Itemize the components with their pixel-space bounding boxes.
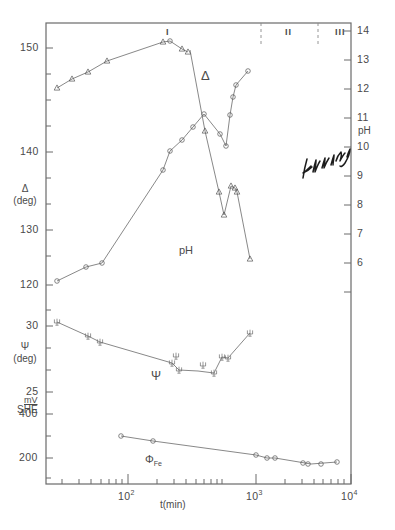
handwritten-annotation [303,149,350,178]
plot-svg [0,0,395,530]
y-ph-tick-10: 10 [357,141,369,152]
y-phi-tick-400: 400 [19,408,38,419]
y-axis-psi-unit: (deg) [6,354,44,365]
region-label-2: II [285,28,292,37]
y-psi-tick-30: 30 [26,320,38,331]
series-label-delta: Δ [201,69,210,83]
y-ph-tick-6: 6 [357,257,363,268]
left-axis-ticks [46,48,53,478]
x-tick-1000: 103 [246,489,263,502]
x-axis-ticks [62,474,351,484]
y-ph-tick-14: 14 [357,25,369,36]
y-axis-psi-symbol: Ψ [8,342,42,353]
y-ph-tick-12: 12 [357,83,369,94]
x-tick-10000: 104 [341,489,358,502]
series-delta [54,39,191,90]
y-ph-tick-11: 11 [357,112,369,123]
series-label-phi-fe: ΦFe [145,454,162,468]
region-label-1: I [166,28,170,37]
y-phi-tick-200: 200 [19,452,38,463]
series-label-ph: pH [179,245,193,257]
series-label-psi: Ψ [151,370,161,383]
series-ph-triangles [190,50,253,261]
y-ph-tick-9: 9 [357,170,363,181]
y-ph-tick-7: 7 [357,228,363,239]
region-label-3: III [335,28,346,37]
series-ph-circles [55,69,251,284]
y-axis-ph-label: pH [358,126,371,137]
y-ph-tick-8: 8 [357,199,363,210]
x-axis-label: t(min) [160,500,186,511]
y-delta-tick-120: 120 [20,279,39,290]
y-axis-delta-unit: (deg) [6,196,44,207]
series-psi [54,319,252,377]
y-delta-tick-140: 140 [20,146,39,157]
y-delta-tick-150: 150 [20,42,39,53]
figure-panel: I II III 150 140 130 120 Δ (deg) 30 25 Ψ… [0,0,395,530]
y-axis-delta-symbol: Δ [8,184,42,195]
y-ph-tick-13: 13 [357,54,369,65]
plot-frame [46,23,351,484]
y-delta-tick-130: 130 [20,224,39,235]
x-tick-100: 102 [118,489,135,502]
